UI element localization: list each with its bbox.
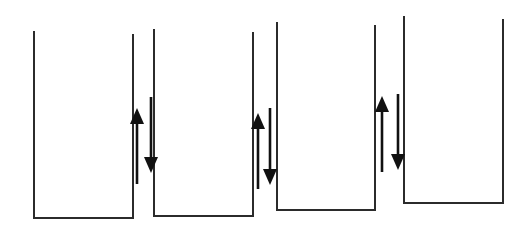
container-4: [404, 16, 503, 203]
arrows-group: [130, 94, 405, 189]
containers-diagram: [0, 0, 532, 228]
up-arrow-icon-3: [375, 96, 389, 172]
container-1: [34, 31, 133, 218]
container-2: [154, 29, 253, 216]
down-arrow-icon-2: [263, 108, 277, 185]
container-3: [277, 22, 375, 210]
down-arrow-icon-3: [391, 94, 405, 170]
containers-group: [34, 16, 503, 218]
down-arrow-icon-1: [144, 97, 158, 173]
